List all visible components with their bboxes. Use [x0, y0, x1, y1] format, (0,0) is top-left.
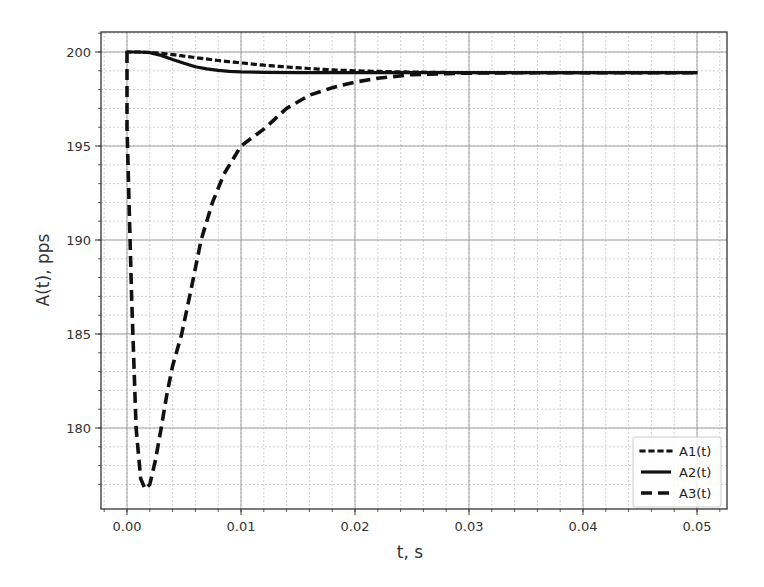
x-tick-label: 0.00	[113, 519, 142, 534]
legend-label: A1(t)	[679, 444, 711, 459]
y-tick-label: 200	[66, 45, 91, 60]
line-chart: 0.000.010.020.030.040.05 180185190195200…	[0, 0, 764, 587]
y-tick-label: 195	[66, 139, 91, 154]
y-tick-label: 180	[66, 421, 91, 436]
x-tick-label: 0.01	[227, 519, 256, 534]
x-tick-label: 0.05	[683, 519, 712, 534]
y-tick-label: 185	[66, 327, 91, 342]
x-axis-label: t, s	[397, 542, 423, 562]
legend: A1(t)A2(t)A3(t)	[633, 437, 721, 507]
x-tick-label: 0.04	[569, 519, 598, 534]
x-tick-label: 0.02	[341, 519, 370, 534]
y-axis-label: A(t), pps	[33, 233, 53, 306]
y-tick-label: 190	[66, 233, 91, 248]
legend-label: A2(t)	[679, 465, 711, 480]
x-tick-label: 0.03	[455, 519, 484, 534]
legend-label: A3(t)	[679, 486, 711, 501]
